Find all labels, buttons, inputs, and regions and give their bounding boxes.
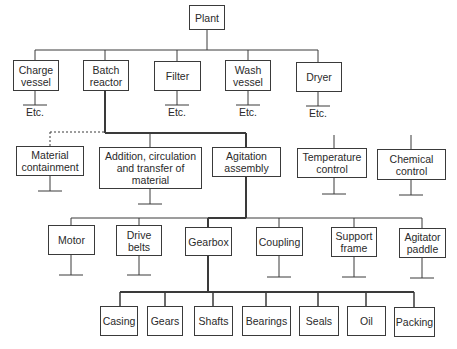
etc-wash-vessel: Etc. <box>228 106 268 118</box>
node-wash-vessel: Wash vessel <box>225 60 271 91</box>
etc-dryer: Etc. <box>298 107 338 119</box>
node-agitation-assembly: Agitation assembly <box>212 147 281 177</box>
etc-charge-vessel: Etc. <box>15 106 55 118</box>
node-bearings: Bearings <box>242 306 291 336</box>
node-gears: Gears <box>147 306 183 336</box>
etc-filter: Etc. <box>157 106 197 118</box>
node-drive-belts: Drive belts <box>116 225 162 256</box>
node-temperature-control: Temperature control <box>297 148 367 178</box>
node-plant: Plant <box>189 5 225 30</box>
node-gearbox: Gearbox <box>185 227 232 256</box>
plant-hierarchy-diagram: Plant Charge vessel Batch reactor Filter… <box>0 0 457 349</box>
node-filter: Filter <box>154 61 201 91</box>
node-chemical-control: Chemical control <box>377 149 446 180</box>
node-seals: Seals <box>299 306 339 336</box>
node-support-frame: Support frame <box>331 227 377 257</box>
node-charge-vessel: Charge vessel <box>13 60 59 91</box>
node-motor: Motor <box>48 225 95 255</box>
node-batch-reactor: Batch reactor <box>83 60 129 91</box>
node-dryer: Dryer <box>296 62 342 92</box>
node-shafts: Shafts <box>194 306 233 336</box>
node-agitator-paddle: Agitator paddle <box>399 228 446 258</box>
node-coupling: Coupling <box>256 227 303 256</box>
node-oil: Oil <box>347 306 386 336</box>
node-addition-circulation-transfer: Addition, circulation and transfer of ma… <box>99 147 202 189</box>
node-casing: Casing <box>100 306 138 336</box>
node-packing: Packing <box>394 307 435 337</box>
node-material-containment: Material containment <box>16 146 84 176</box>
